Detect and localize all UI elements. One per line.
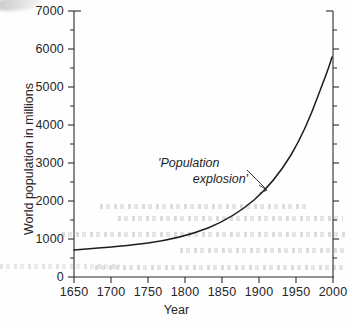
annotation-line-2: explosion' (158, 171, 253, 187)
population-curve (74, 57, 332, 250)
x-tick-label: 1750 (128, 285, 168, 299)
x-tick-label: 1700 (91, 285, 131, 299)
x-tick-label: 1800 (165, 285, 205, 299)
x-axis-ticks (74, 277, 333, 283)
chart-figure: 0 1000 2000 3000 4000 5000 6000 7000 165… (0, 0, 353, 327)
y-tick-label: 5000 (8, 80, 64, 94)
x-tick-label: 1900 (239, 285, 279, 299)
x-tick-label: 1950 (276, 285, 316, 299)
y-tick-label: 1000 (8, 232, 64, 246)
x-tick-label: 1650 (54, 285, 94, 299)
y-tick-label: 0 (8, 270, 64, 284)
population-explosion-annotation: 'Population explosion' (158, 155, 253, 187)
y-tick-label: 6000 (8, 42, 64, 56)
y-axis-title: World population in millions (22, 64, 36, 254)
y-tick-label: 3000 (8, 156, 64, 170)
y-tick-label: 4000 (8, 118, 64, 132)
y-tick-label: 7000 (8, 4, 64, 18)
right-axis-ticks (333, 30, 339, 258)
x-tick-label: 1850 (202, 285, 242, 299)
y-tick-label: 2000 (8, 194, 64, 208)
x-tick-label: 2000 (313, 285, 353, 299)
annotation-line-1: 'Population (158, 155, 253, 171)
x-axis-title: Year (0, 303, 353, 317)
y-axis-minor-ticks (70, 30, 74, 258)
